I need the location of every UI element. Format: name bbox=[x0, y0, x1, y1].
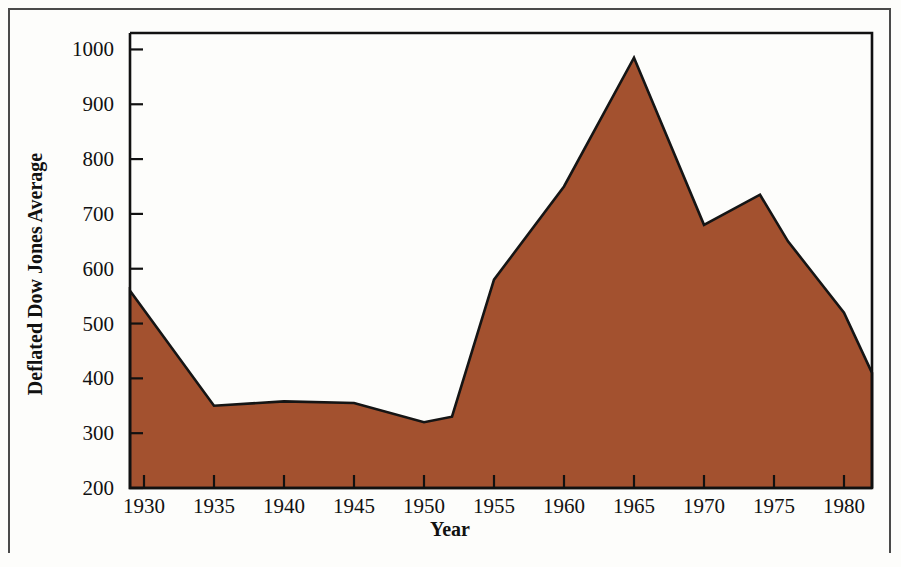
y-tick-label-1000: 1000 bbox=[72, 37, 114, 61]
x-tick-label-1955: 1955 bbox=[473, 494, 515, 518]
x-tick-label-1980: 1980 bbox=[823, 494, 865, 518]
y-tick-label-900: 900 bbox=[83, 92, 115, 116]
y-tick-label-700: 700 bbox=[83, 202, 115, 226]
y-axis-tick-labels: 2003004005006007008009001000 bbox=[72, 37, 114, 500]
x-axis-title: Year bbox=[430, 518, 470, 540]
x-tick-label-1975: 1975 bbox=[753, 494, 795, 518]
y-axis-title: Deflated Dow Jones Average bbox=[24, 153, 47, 395]
y-tick-label-500: 500 bbox=[83, 312, 115, 336]
y-tick-label-600: 600 bbox=[83, 257, 115, 281]
y-tick-label-200: 200 bbox=[83, 476, 115, 500]
y-tick-label-300: 300 bbox=[83, 421, 115, 445]
x-tick-label-1970: 1970 bbox=[683, 494, 725, 518]
y-tick-label-800: 800 bbox=[83, 147, 115, 171]
x-tick-label-1930: 1930 bbox=[123, 494, 165, 518]
x-tick-label-1945: 1945 bbox=[333, 494, 375, 518]
x-axis-tick-labels: 1930193519401945195019551960196519701975… bbox=[123, 494, 865, 518]
area-series-dow-jones bbox=[130, 58, 872, 488]
x-tick-label-1950: 1950 bbox=[403, 494, 445, 518]
x-tick-label-1940: 1940 bbox=[263, 494, 305, 518]
chart-plot-area: 2003004005006007008009001000 19301935194… bbox=[0, 0, 901, 567]
x-tick-label-1965: 1965 bbox=[613, 494, 655, 518]
chart-figure: 2003004005006007008009001000 19301935194… bbox=[0, 0, 901, 567]
x-tick-label-1960: 1960 bbox=[543, 494, 585, 518]
x-tick-label-1935: 1935 bbox=[193, 494, 235, 518]
y-tick-label-400: 400 bbox=[83, 366, 115, 390]
